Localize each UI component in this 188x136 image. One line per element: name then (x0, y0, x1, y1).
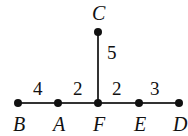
graph-diagram: 4 2 2 3 5 B A F E D C (0, 0, 188, 136)
node-f (94, 99, 102, 107)
node-c (94, 28, 102, 36)
node-d (175, 99, 183, 107)
label-d: D (172, 113, 188, 135)
weight-f-e: 2 (112, 78, 122, 99)
weight-b-a: 4 (33, 78, 43, 99)
label-e: E (133, 113, 146, 135)
node-a (54, 99, 62, 107)
edge-weights: 4 2 2 3 5 (33, 42, 160, 99)
label-c: C (92, 2, 106, 24)
weight-a-f: 2 (73, 78, 83, 99)
weight-e-d: 3 (150, 78, 160, 99)
label-f: F (92, 113, 106, 135)
node-labels: B A F E D C (13, 2, 188, 135)
label-b: B (13, 113, 25, 135)
node-b (14, 99, 22, 107)
weight-f-c: 5 (107, 42, 117, 63)
node-e (135, 99, 143, 107)
label-a: A (51, 113, 66, 135)
